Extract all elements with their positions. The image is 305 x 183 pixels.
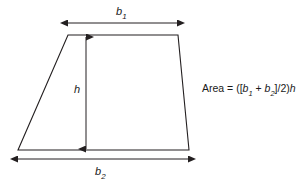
area-formula: Area = ([b1 + b2]/2)h bbox=[202, 83, 296, 97]
formula-h-symbol: h bbox=[290, 82, 296, 94]
bottom-base-label: b2 bbox=[95, 166, 106, 180]
top-base-label-subscript: 1 bbox=[122, 12, 126, 21]
trapezoid-outline bbox=[18, 35, 189, 150]
height-label: h bbox=[74, 84, 80, 95]
formula-b1-subscript: 1 bbox=[248, 89, 252, 98]
formula-plus: + bbox=[253, 82, 265, 94]
height-label-base: h bbox=[74, 83, 80, 95]
formula-lead: Area = ([ bbox=[202, 82, 243, 94]
trapezoid-area-figure: b1 b2 h Area = ([b1 + b2]/2)h bbox=[0, 0, 305, 183]
top-base-label: b1 bbox=[116, 6, 127, 20]
bottom-base-label-subscript: 2 bbox=[101, 172, 105, 181]
formula-tail: ]/2) bbox=[275, 82, 290, 94]
formula-b2-subscript: 2 bbox=[270, 89, 274, 98]
